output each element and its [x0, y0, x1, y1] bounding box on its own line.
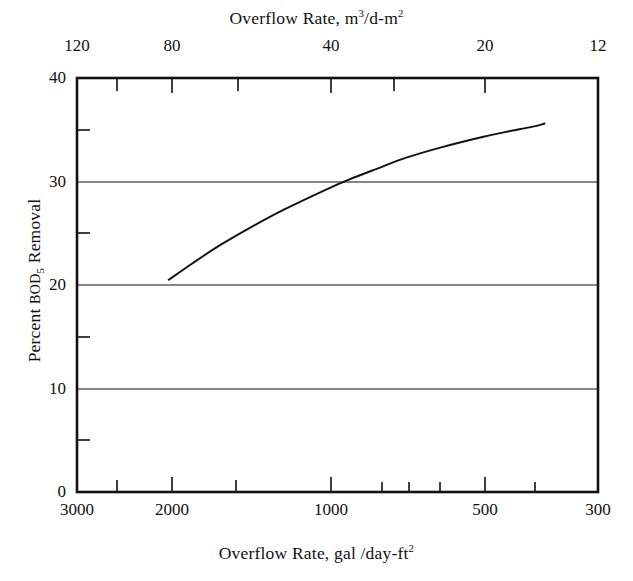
- data-curve-bod-removal: [169, 124, 545, 280]
- bottom-axis-ticks: [117, 477, 535, 492]
- chart-figure: Overflow Rate, m3/d-m2 Overflow Rate, ga…: [0, 0, 633, 581]
- data-series-group: [169, 124, 545, 280]
- gridlines: [77, 182, 598, 389]
- plot-area-svg: [0, 0, 633, 581]
- top-axis-ticks: [117, 78, 485, 93]
